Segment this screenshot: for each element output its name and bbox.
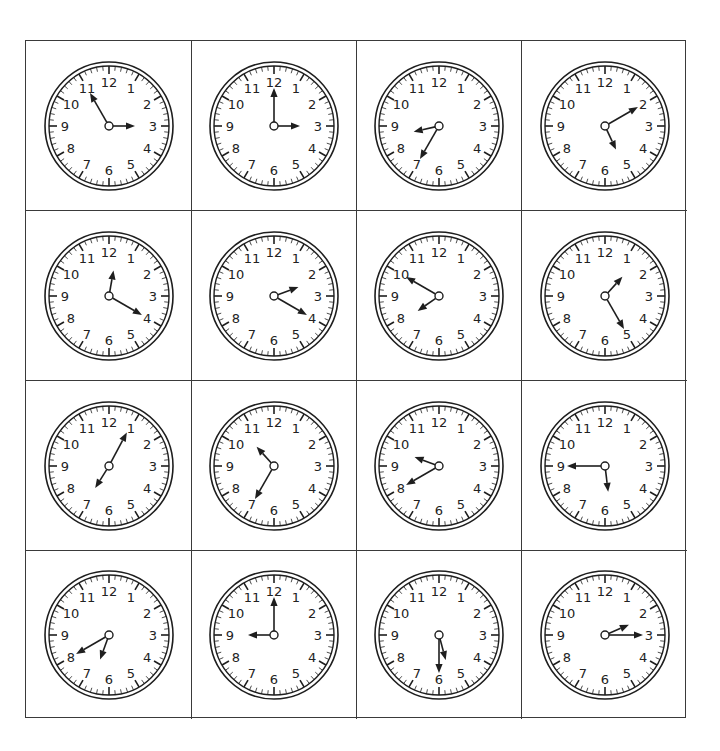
clock-numeral: 6 bbox=[600, 162, 608, 177]
clock-numeral: 8 bbox=[397, 140, 405, 155]
clock-numeral: 8 bbox=[66, 650, 74, 665]
clock-numeral: 11 bbox=[244, 589, 261, 604]
clock-numeral: 9 bbox=[226, 628, 234, 643]
clock-numeral: 1 bbox=[457, 420, 465, 435]
clock-numeral: 3 bbox=[644, 118, 652, 133]
clock-numeral: 9 bbox=[226, 288, 234, 303]
clock-numeral: 12 bbox=[596, 244, 613, 259]
clock-numeral: 12 bbox=[431, 244, 448, 259]
clock-numeral: 7 bbox=[413, 156, 421, 171]
clock-numeral: 12 bbox=[431, 414, 448, 429]
hour-hand-arrow-icon bbox=[113, 122, 135, 129]
clock-numeral: 5 bbox=[292, 496, 300, 511]
minute-hand-arrow-icon bbox=[406, 468, 435, 485]
clock-numeral: 9 bbox=[556, 628, 564, 643]
minute-hand-arrow-icon bbox=[255, 469, 272, 498]
clock-numeral: 9 bbox=[226, 458, 234, 473]
clock-numeral: 10 bbox=[393, 436, 410, 451]
clock-numeral: 9 bbox=[60, 458, 68, 473]
analog-clock: 121234567891011 bbox=[371, 567, 507, 703]
hour-hand-arrow-icon bbox=[257, 446, 272, 462]
clock-numeral: 8 bbox=[66, 140, 74, 155]
clock-numeral: 12 bbox=[266, 244, 283, 259]
clock-numeral: 6 bbox=[270, 162, 278, 177]
clock-center-pivot bbox=[105, 462, 113, 470]
clock-worksheet-grid: 1212345678910112:551212345678910113:0012… bbox=[25, 40, 686, 718]
clock-cell-r1c3: 1212345678910118:35 bbox=[357, 41, 522, 211]
clock-numeral: 2 bbox=[142, 606, 150, 621]
analog-clock: 121234567891011 bbox=[537, 398, 673, 534]
clock-center-pivot bbox=[601, 292, 609, 300]
clock-numeral: 6 bbox=[600, 502, 608, 517]
clock-numeral: 3 bbox=[148, 458, 156, 473]
clock-numeral: 3 bbox=[644, 288, 652, 303]
analog-clock: 121234567891011 bbox=[371, 58, 507, 194]
clock-center-pivot bbox=[105, 292, 113, 300]
clock-numeral: 12 bbox=[596, 414, 613, 429]
clock-numeral: 5 bbox=[292, 326, 300, 341]
clock-numeral: 9 bbox=[60, 288, 68, 303]
clock-numeral: 11 bbox=[409, 250, 426, 265]
clock-numeral: 1 bbox=[126, 80, 134, 95]
clock-numeral: 11 bbox=[574, 589, 591, 604]
clock-numeral: 2 bbox=[638, 96, 646, 111]
clock-center-pivot bbox=[601, 122, 609, 130]
clock-numeral: 11 bbox=[78, 250, 95, 265]
clock-numeral: 7 bbox=[578, 666, 586, 681]
minute-hand-arrow-icon bbox=[608, 107, 637, 124]
clock-numeral: 7 bbox=[248, 666, 256, 681]
clock-numeral: 7 bbox=[578, 156, 586, 171]
analog-clock: 121234567891011 bbox=[206, 567, 342, 703]
clock-numeral: 5 bbox=[622, 326, 630, 341]
clock-numeral: 4 bbox=[142, 480, 150, 495]
clock-numeral: 10 bbox=[393, 266, 410, 281]
analog-clock: 121234567891011 bbox=[537, 58, 673, 194]
clock-numeral: 3 bbox=[479, 288, 487, 303]
clock-numeral: 6 bbox=[270, 332, 278, 347]
clock-center-pivot bbox=[105, 122, 113, 130]
clock-numeral: 2 bbox=[142, 436, 150, 451]
clock-numeral: 3 bbox=[479, 118, 487, 133]
clock-numeral: 7 bbox=[578, 496, 586, 511]
clock-numeral: 12 bbox=[266, 584, 283, 599]
clock-numeral: 1 bbox=[292, 420, 300, 435]
clock-numeral: 3 bbox=[644, 628, 652, 643]
clock-numeral: 4 bbox=[473, 650, 481, 665]
clock-cell-r4c3: 1212345678910115:30 bbox=[357, 551, 522, 719]
clock-numeral: 4 bbox=[473, 480, 481, 495]
clock-numeral: 2 bbox=[308, 266, 316, 281]
clock-numeral: 1 bbox=[126, 589, 134, 604]
clock-numeral: 1 bbox=[457, 589, 465, 604]
analog-clock: 121234567891011 bbox=[206, 228, 342, 364]
clock-numeral: 9 bbox=[60, 628, 68, 643]
clock-numeral: 10 bbox=[558, 606, 575, 621]
clock-numeral: 12 bbox=[100, 244, 117, 259]
clock-numeral: 7 bbox=[248, 156, 256, 171]
clock-cell-r3c2: 12123456789101110:35 bbox=[192, 381, 357, 551]
hour-hand-arrow-icon bbox=[606, 129, 615, 149]
clock-numeral: 10 bbox=[62, 606, 79, 621]
hour-hand-arrow-icon bbox=[278, 286, 299, 294]
clock-numeral: 4 bbox=[638, 480, 646, 495]
clock-center-pivot bbox=[601, 462, 609, 470]
clock-numeral: 8 bbox=[232, 480, 240, 495]
minute-hand-arrow-icon bbox=[406, 277, 435, 294]
clock-numeral: 6 bbox=[435, 332, 443, 347]
minute-hand-arrow-icon bbox=[567, 462, 601, 469]
clock-numeral: 9 bbox=[556, 458, 564, 473]
clock-numeral: 4 bbox=[473, 140, 481, 155]
clock-numeral: 10 bbox=[62, 436, 79, 451]
clock-numeral: 7 bbox=[248, 496, 256, 511]
clock-numeral: 8 bbox=[562, 480, 570, 495]
clock-numeral: 2 bbox=[142, 96, 150, 111]
clock-numeral: 6 bbox=[104, 502, 112, 517]
clock-numeral: 6 bbox=[600, 672, 608, 687]
clock-numeral: 8 bbox=[66, 480, 74, 495]
clock-center-pivot bbox=[435, 292, 443, 300]
hour-hand-arrow-icon bbox=[99, 639, 107, 660]
clock-numeral: 11 bbox=[574, 250, 591, 265]
clock-numeral: 9 bbox=[226, 118, 234, 133]
clock-numeral: 12 bbox=[100, 584, 117, 599]
clock-cell-r2c4: 1212345678910111:25 bbox=[522, 211, 687, 381]
minute-hand-arrow-icon bbox=[277, 298, 306, 315]
